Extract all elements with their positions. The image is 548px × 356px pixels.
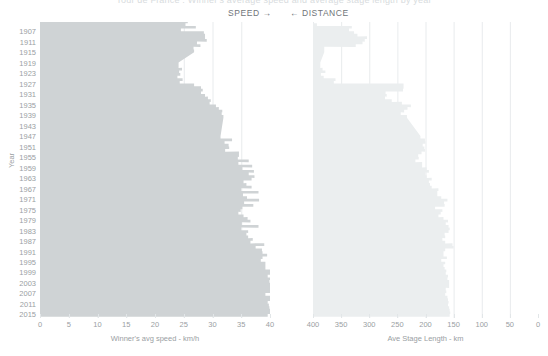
speed-tick-15: 15 xyxy=(122,320,130,329)
year-tick-1919: 1919 xyxy=(19,60,36,68)
year-tick-1975: 1975 xyxy=(19,207,36,215)
distance-tickmark-50 xyxy=(510,314,511,318)
year-axis-label: Year xyxy=(7,141,16,181)
distance-tick-0: 0 xyxy=(536,320,540,329)
year-tick-1943: 1943 xyxy=(19,123,36,131)
chart-title-text: Tour de France : Winner's average speed … xyxy=(0,0,548,5)
year-tick-1987: 1987 xyxy=(19,238,36,246)
year-tick-1951: 1951 xyxy=(19,144,36,152)
distance-axis-caption: Ave Stage Length - km xyxy=(313,334,538,343)
speed-tickmark-10 xyxy=(98,314,99,318)
speed-area-segment-0 xyxy=(40,22,270,317)
distance-tick-150: 150 xyxy=(447,320,460,329)
distance-tick-200: 200 xyxy=(419,320,432,329)
year-tick-1971: 1971 xyxy=(19,196,36,204)
speed-tickmark-0 xyxy=(40,314,41,318)
year-tick-1927: 1927 xyxy=(19,81,36,89)
year-tick-1979: 1979 xyxy=(19,217,36,225)
distance-plot-area xyxy=(313,22,538,318)
speed-tickmark-5 xyxy=(69,314,70,318)
year-tick-1963: 1963 xyxy=(19,175,36,183)
year-tick-1915: 1915 xyxy=(19,49,36,57)
speed-tick-20: 20 xyxy=(151,320,159,329)
speed-tick-35: 35 xyxy=(237,320,245,329)
speed-tickmark-20 xyxy=(155,314,156,318)
speed-plot-area xyxy=(40,22,270,318)
speed-tick-30: 30 xyxy=(208,320,216,329)
distance-tickmark-400 xyxy=(313,314,314,318)
distance-tick-350: 350 xyxy=(335,320,348,329)
year-tick-1955: 1955 xyxy=(19,154,36,162)
speed-tick-10: 10 xyxy=(93,320,101,329)
year-tick-1931: 1931 xyxy=(19,91,36,99)
year-tick-2015: 2015 xyxy=(19,311,36,319)
distance-tickmark-350 xyxy=(341,314,342,318)
year-tick-1907: 1907 xyxy=(19,28,36,36)
distance-tickmark-100 xyxy=(482,314,483,318)
speed-x-axis: 0510152025303540 xyxy=(40,318,270,330)
speed-tickmark-25 xyxy=(184,314,185,318)
year-tick-2011: 2011 xyxy=(20,301,36,309)
speed-tickmark-40 xyxy=(270,314,271,318)
year-tick-1959: 1959 xyxy=(19,165,36,173)
distance-x-axis: 400350300250200150100500 xyxy=(313,318,538,330)
year-tick-1983: 1983 xyxy=(19,228,36,236)
distance-tick-300: 300 xyxy=(363,320,376,329)
speed-tick-25: 25 xyxy=(180,320,188,329)
distance-tickmark-0 xyxy=(538,314,539,318)
tour-de-france-butterfly-chart: Tour de France : Winner's average speed … xyxy=(0,0,548,356)
speed-direction-label: SPEED → xyxy=(228,8,272,18)
speed-tick-5: 5 xyxy=(67,320,71,329)
distance-tick-50: 50 xyxy=(506,320,514,329)
distance-direction-label: ← DISTANCE xyxy=(290,8,349,18)
speed-axis-caption: Winner's avg speed - km/h xyxy=(40,334,270,343)
speed-tick-40: 40 xyxy=(266,320,274,329)
speed-tick-0: 0 xyxy=(38,320,42,329)
direction-legend: SPEED → ← DISTANCE xyxy=(0,8,548,22)
year-tick-2007: 2007 xyxy=(19,290,36,298)
distance-tickmark-300 xyxy=(369,314,370,318)
year-tick-1967: 1967 xyxy=(19,186,36,194)
distance-tickmark-250 xyxy=(397,314,398,318)
speed-tickmark-30 xyxy=(213,314,214,318)
year-tick-1995: 1995 xyxy=(19,259,36,267)
year-tick-1991: 1991 xyxy=(19,249,36,257)
distance-tick-400: 400 xyxy=(307,320,320,329)
distance-tickmark-200 xyxy=(426,314,427,318)
distance-tick-250: 250 xyxy=(391,320,404,329)
year-tick-1911: 1911 xyxy=(20,39,36,47)
year-tick-1939: 1939 xyxy=(19,112,36,120)
speed-tickmark-35 xyxy=(241,314,242,318)
year-tick-1923: 1923 xyxy=(19,70,36,78)
speed-tickmark-15 xyxy=(126,314,127,318)
distance-tickmark-150 xyxy=(454,314,455,318)
distance-chart-panel xyxy=(313,22,538,318)
year-tick-1999: 1999 xyxy=(19,269,36,277)
year-tick-1935: 1935 xyxy=(19,102,36,110)
year-tick-1947: 1947 xyxy=(19,133,36,141)
speed-chart-panel xyxy=(40,22,270,318)
distance-area-segment-0 xyxy=(313,22,454,317)
year-tick-2003: 2003 xyxy=(19,280,36,288)
distance-tick-100: 100 xyxy=(475,320,488,329)
